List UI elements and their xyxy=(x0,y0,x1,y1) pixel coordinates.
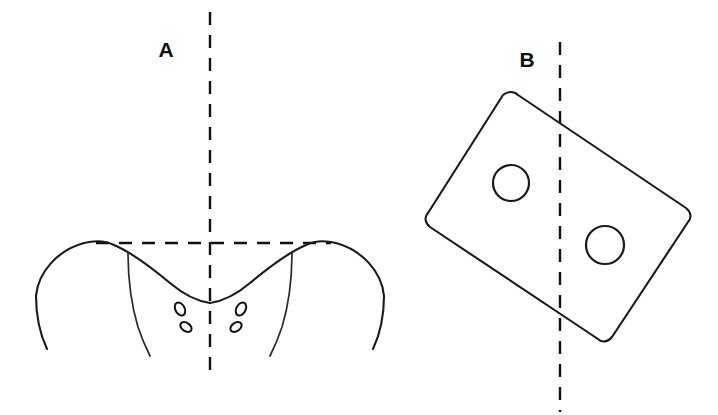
figure-background xyxy=(0,0,718,415)
panel-b-label: B xyxy=(519,48,534,71)
panel-a-label: A xyxy=(158,38,173,61)
figure-canvas: A B xyxy=(0,0,718,415)
figure-root: A B xyxy=(0,0,718,415)
